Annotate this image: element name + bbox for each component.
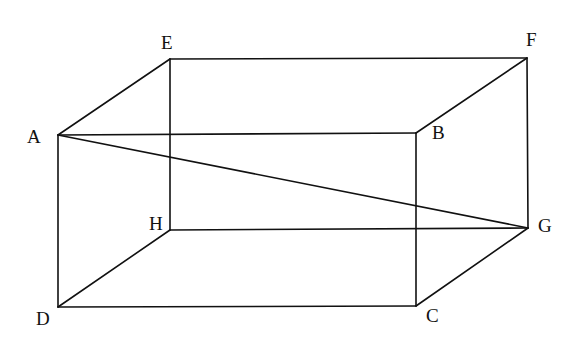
edge-ef — [170, 58, 527, 59]
vertex-label-a: A — [27, 126, 41, 147]
vertex-labels-group: A B C D E F G H — [27, 29, 552, 329]
edge-gh — [170, 228, 528, 230]
edge-ag — [58, 135, 528, 228]
vertex-label-d: D — [36, 308, 50, 329]
vertex-label-h: H — [149, 213, 163, 234]
vertex-label-c: C — [426, 305, 439, 326]
prism-diagram: A B C D E F G H — [0, 0, 580, 348]
edge-fg — [527, 58, 528, 228]
edge-cd — [58, 306, 416, 307]
edge-ae — [58, 59, 170, 135]
edge-dh — [58, 230, 170, 307]
vertex-label-f: F — [526, 29, 537, 50]
vertex-label-g: G — [538, 215, 552, 236]
vertex-label-b: B — [432, 122, 445, 143]
edge-ab — [58, 133, 416, 135]
vertex-label-e: E — [161, 32, 173, 53]
edge-cg — [416, 228, 528, 306]
edges-group — [58, 58, 528, 307]
